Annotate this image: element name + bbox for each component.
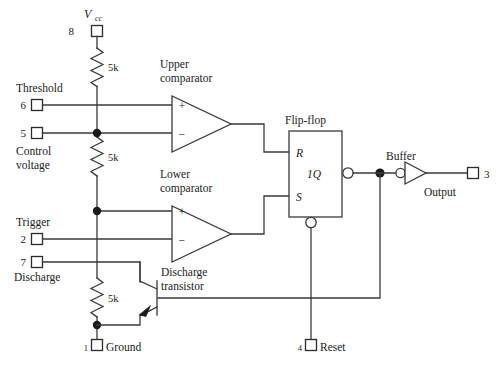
label-control-voltage-line2: voltage bbox=[16, 159, 50, 172]
label-buffer: Buffer bbox=[386, 150, 416, 162]
circuit-schematic-svg: V cc 8 5k 5k 5k Threshold 6 5 Control vo… bbox=[0, 0, 500, 368]
label-discharge-transistor-line2: transistor bbox=[161, 280, 204, 292]
label-upper-comparator-line2: comparator bbox=[160, 72, 213, 85]
flip-flop-reset-bubble bbox=[306, 217, 316, 227]
pin-number-3: 3 bbox=[484, 168, 490, 180]
resistor-mid-value: 5k bbox=[108, 152, 119, 163]
resistor-top-zigzag bbox=[91, 48, 103, 87]
label-lower-comparator-line1: Lower bbox=[160, 168, 190, 180]
pin-number-5: 5 bbox=[21, 127, 27, 139]
discharge-transistor[interactable] bbox=[97, 262, 157, 325]
supply-branch bbox=[91, 26, 103, 351]
upper-comparator-minus-sign: − bbox=[178, 128, 186, 140]
upper-comparator[interactable] bbox=[172, 96, 289, 152]
resistor-top-value: 5k bbox=[108, 62, 119, 73]
lower-comparator-minus-sign: − bbox=[178, 234, 186, 246]
label-trigger: Trigger bbox=[16, 216, 50, 229]
flip-flop-label-q: 1Q bbox=[307, 168, 322, 180]
label-discharge-transistor-line1: Discharge bbox=[161, 266, 207, 279]
label-lower-comparator-line2: comparator bbox=[160, 182, 213, 195]
buffer-triangle[interactable] bbox=[405, 162, 426, 184]
label-reset: Reset bbox=[320, 341, 346, 353]
output-buffer[interactable] bbox=[396, 162, 479, 184]
flip-flop-q-output-bubble bbox=[343, 168, 353, 178]
wire-upper-comp-out-to-ff-r bbox=[231, 124, 289, 152]
input-terminal-wires bbox=[32, 100, 173, 283]
terminal-box-vcc[interactable] bbox=[92, 26, 103, 37]
flip-flop-label-r: R bbox=[295, 147, 303, 159]
label-flip-flop: Flip-flop bbox=[285, 114, 326, 127]
transistor-collector-lead bbox=[140, 262, 157, 289]
terminal-box-output[interactable] bbox=[468, 168, 479, 179]
pin-number-1: 1 bbox=[84, 343, 88, 353]
label-discharge: Discharge bbox=[14, 271, 60, 284]
label-ground: Ground bbox=[106, 341, 141, 353]
resistor-bot-value: 5k bbox=[108, 293, 119, 304]
buffer-input-inverting-bubble bbox=[396, 168, 405, 177]
pin-number-6: 6 bbox=[21, 99, 27, 111]
pin-number-8: 8 bbox=[69, 25, 75, 37]
pin-number-7: 7 bbox=[21, 256, 27, 268]
wire-lower-comp-out-to-ff-s bbox=[231, 196, 289, 234]
label-upper-comparator-line1: Upper bbox=[160, 58, 189, 71]
pin-number-4: 4 bbox=[298, 343, 303, 353]
vcc-label: V bbox=[84, 7, 93, 21]
terminal-box-ground[interactable] bbox=[92, 340, 103, 351]
lower-comparator[interactable] bbox=[172, 196, 289, 262]
label-control-voltage-line1: Control bbox=[16, 145, 51, 157]
terminal-box-trigger[interactable] bbox=[32, 234, 43, 245]
flip-flop[interactable] bbox=[289, 131, 399, 345]
terminal-box-threshold[interactable] bbox=[32, 100, 43, 111]
resistor-mid-zigzag bbox=[91, 137, 103, 176]
lower-comparator-plus-sign: + bbox=[178, 206, 186, 218]
label-threshold: Threshold bbox=[16, 82, 63, 94]
resistor-bot-zigzag bbox=[91, 278, 103, 317]
vcc-subscript-label: cc bbox=[95, 14, 103, 23]
terminal-box-discharge[interactable] bbox=[32, 257, 43, 268]
circuit-diagram-canvas: V cc 8 5k 5k 5k Threshold 6 5 Control vo… bbox=[0, 0, 500, 368]
flip-flop-label-s: S bbox=[296, 191, 302, 203]
terminal-box-control-voltage[interactable] bbox=[32, 128, 43, 139]
upper-comparator-plus-sign: + bbox=[178, 100, 186, 112]
terminal-box-reset[interactable] bbox=[306, 340, 317, 351]
node-dot-trigger-reference bbox=[93, 207, 101, 215]
label-output: Output bbox=[424, 186, 457, 199]
pin-number-2: 2 bbox=[21, 233, 27, 245]
node-dot-control-voltage bbox=[93, 129, 101, 137]
